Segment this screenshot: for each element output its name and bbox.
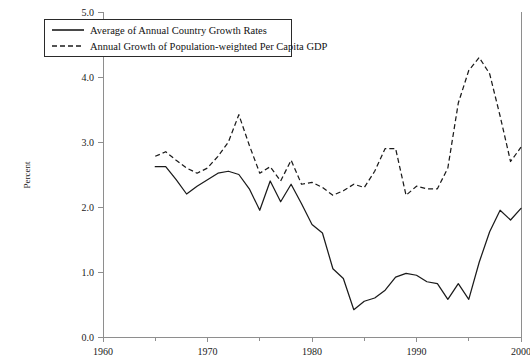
chart-legend: Average of Annual Country Growth Rates A…: [44, 19, 328, 56]
y-tick-label: 1.0: [82, 267, 95, 278]
x-tick-label: 1960: [93, 346, 113, 357]
series-line-country-average: [155, 167, 521, 310]
y-tick-label: 5.0: [82, 7, 95, 18]
y-tick-label: 2.0: [82, 202, 95, 213]
x-tick-label: 2000: [511, 346, 530, 357]
y-tick-label: 3.0: [82, 137, 95, 148]
y-tick-label: 4.0: [82, 72, 95, 83]
x-tick-label: 1980: [302, 346, 322, 357]
legend-label-dashed: Annual Growth of Population-weighted Per…: [90, 41, 328, 52]
x-tick-label: 1970: [198, 346, 218, 357]
legend-label-solid: Average of Annual Country Growth Rates: [90, 25, 267, 36]
x-axis-ticks: 19601970198019902000: [93, 337, 530, 357]
x-tick-label: 1990: [407, 346, 427, 357]
y-axis-title: Percent: [22, 161, 32, 188]
line-chart: 0.01.02.03.04.05.0 19601970198019902000 …: [0, 0, 530, 364]
data-series: [155, 58, 521, 310]
axes: [103, 12, 521, 337]
series-line-population-weighted: [155, 58, 521, 196]
y-axis-ticks: 0.01.02.03.04.05.0: [82, 7, 104, 343]
y-tick-label: 0.0: [82, 332, 95, 343]
chart-container: 0.01.02.03.04.05.0 19601970198019902000 …: [0, 0, 530, 364]
